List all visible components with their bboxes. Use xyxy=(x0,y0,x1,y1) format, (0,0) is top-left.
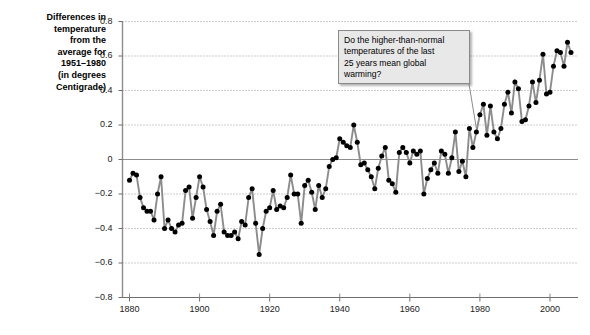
data-point xyxy=(523,117,528,122)
x-axis-tick-label: 1880 xyxy=(110,305,150,314)
data-point xyxy=(397,150,402,155)
data-point xyxy=(327,164,332,169)
data-point xyxy=(173,229,178,234)
data-point xyxy=(505,90,510,95)
data-point xyxy=(393,190,398,195)
data-point xyxy=(250,186,255,191)
data-point xyxy=(204,207,209,212)
x-axis-tick-label: 1900 xyxy=(180,305,220,314)
x-axis-tick-label: 1980 xyxy=(460,305,500,314)
data-point xyxy=(491,129,496,134)
data-point xyxy=(190,216,195,221)
data-point xyxy=(194,195,199,200)
data-point xyxy=(260,226,265,231)
y-axis-tick-label: 0 xyxy=(87,155,113,164)
data-point xyxy=(421,192,426,197)
data-point xyxy=(155,192,160,197)
data-point xyxy=(148,209,153,214)
annotation-leader-line xyxy=(468,78,476,128)
data-point xyxy=(407,160,412,165)
data-point xyxy=(362,160,367,165)
data-point xyxy=(488,104,493,109)
data-point xyxy=(495,136,500,141)
y-axis-tick-label: 0.2 xyxy=(87,120,113,129)
data-point xyxy=(267,205,272,210)
data-point xyxy=(152,217,157,222)
data-point xyxy=(425,176,430,181)
data-point xyxy=(379,154,384,159)
data-point xyxy=(138,195,143,200)
chart-root: Differences in temperature from the aver… xyxy=(0,0,590,335)
data-point xyxy=(509,110,514,115)
data-point xyxy=(547,90,552,95)
data-point xyxy=(456,169,461,174)
data-point xyxy=(246,195,251,200)
x-axis-tick-label: 2000 xyxy=(530,305,570,314)
y-axis-tick-label: 0.6 xyxy=(87,51,113,60)
data-point xyxy=(208,219,213,224)
data-point xyxy=(215,209,220,214)
data-point xyxy=(551,64,556,69)
data-point xyxy=(460,159,465,164)
data-point xyxy=(540,52,545,57)
data-point xyxy=(243,223,248,228)
data-point xyxy=(484,133,489,138)
data-point xyxy=(369,174,374,179)
data-point xyxy=(334,155,339,160)
y-axis-tick-label: −0.8 xyxy=(87,293,113,302)
annotation-line-4: warming? xyxy=(344,69,464,80)
data-point xyxy=(285,195,290,200)
data-point xyxy=(288,173,293,178)
data-point xyxy=(390,181,395,186)
data-point xyxy=(533,100,538,105)
data-point xyxy=(428,167,433,172)
data-point xyxy=(474,129,479,134)
data-point xyxy=(449,155,454,160)
data-point xyxy=(313,207,318,212)
data-point xyxy=(565,40,570,45)
data-point xyxy=(512,79,517,84)
data-point xyxy=(470,145,475,150)
data-point xyxy=(498,126,503,131)
data-point xyxy=(134,173,139,178)
data-point xyxy=(271,188,276,193)
data-point xyxy=(383,145,388,150)
data-point xyxy=(281,205,286,210)
data-point xyxy=(516,86,521,91)
data-point xyxy=(201,185,206,190)
x-axis-tick-label: 1940 xyxy=(320,305,360,314)
annotation-line-3: 25 years mean global xyxy=(344,58,464,69)
y-axis-tick-label: −0.4 xyxy=(87,224,113,233)
data-point xyxy=(418,148,423,153)
data-point xyxy=(463,174,468,179)
data-point xyxy=(376,166,381,171)
data-point xyxy=(502,102,507,107)
data-point xyxy=(316,183,321,188)
data-point xyxy=(442,152,447,157)
annotation-line-2: temperatures of the last xyxy=(344,46,464,57)
data-point xyxy=(197,174,202,179)
data-point xyxy=(218,202,223,207)
y-axis-tick-label: 0.4 xyxy=(87,86,113,95)
x-axis-tick-label: 1960 xyxy=(390,305,430,314)
data-point xyxy=(432,160,437,165)
data-point xyxy=(320,195,325,200)
annotation-callout: Do the higher-than-normal temperatures o… xyxy=(338,30,470,84)
data-point xyxy=(355,140,360,145)
x-axis-tick-label: 1920 xyxy=(250,305,290,314)
data-point xyxy=(481,102,486,107)
annotation-line-1: Do the higher-than-normal xyxy=(344,35,464,46)
data-point xyxy=(295,192,300,197)
data-point xyxy=(365,167,370,172)
data-point xyxy=(477,112,482,117)
y-axis-tick-label: 0.8 xyxy=(87,17,113,26)
data-point xyxy=(526,104,531,109)
data-point xyxy=(467,126,472,131)
data-point xyxy=(187,185,192,190)
data-point xyxy=(159,174,164,179)
data-point xyxy=(558,50,563,55)
data-point xyxy=(348,145,353,150)
data-point xyxy=(561,64,566,69)
data-point xyxy=(236,236,241,241)
data-point xyxy=(404,150,409,155)
